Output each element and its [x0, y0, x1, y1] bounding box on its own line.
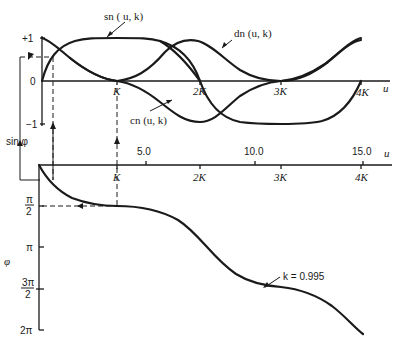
u-arrow-up	[50, 122, 56, 129]
sn-arrowhead	[107, 31, 113, 37]
phi-label-pi: π	[26, 242, 33, 253]
phi-label-half-pi-den: 2	[26, 206, 32, 217]
k-value-label: k = 0.995	[283, 271, 325, 282]
bottom-label-4K: 4K	[355, 171, 369, 183]
phi-axis-label: φ	[4, 255, 10, 267]
K-arrow-up	[114, 137, 120, 144]
sn-label: sn ( u, k)	[104, 10, 143, 23]
u-label-5: 5.0	[137, 146, 151, 157]
phi-label-2pi: 2π	[20, 325, 33, 336]
sin-phi-label: sin φ	[6, 136, 29, 147]
top-x-axis-label-u: u	[383, 82, 389, 94]
bottom-label-K: K	[112, 171, 121, 183]
half-pi-arrow-left	[77, 203, 83, 209]
construction-lines: sin φ	[6, 52, 120, 209]
top-y-label-plus1: +1	[22, 33, 34, 44]
phi-label-3half-pi-den: 2	[25, 289, 31, 300]
bottom-plot: 5.0 10.0 15.0 u K 2K 3K 4K π 2 π 3π 2 2π…	[4, 146, 392, 336]
bottom-label-3K: 3K	[273, 171, 288, 183]
phi-label-half-pi-num: π	[26, 194, 33, 205]
dn-label: dn (u, k)	[234, 27, 272, 40]
top-plot: +1 0 −1 K 2K 3K 4K u sn ( u, k) cn (u, k…	[22, 10, 390, 130]
cn-label: cn (u, k)	[130, 114, 167, 127]
top-y-label-zero: 0	[30, 76, 36, 87]
dn-arrowhead	[222, 42, 227, 48]
cn-curve	[42, 38, 361, 122]
dn-curve	[160, 41, 200, 81]
bottom-label-2K: 2K	[193, 171, 207, 183]
elliptic-functions-figure: +1 0 −1 K 2K 3K 4K u sn ( u, k) cn (u, k…	[0, 0, 398, 349]
phi-curve	[39, 165, 363, 334]
bracket-arrow-right	[28, 52, 34, 60]
u-label-10: 10.0	[244, 146, 264, 157]
bottom-x-axis-label-u: u	[384, 147, 390, 159]
u-label-15: 15.0	[352, 146, 372, 157]
top-x-label-3K: 3K	[273, 85, 288, 97]
top-y-label-minus1: −1	[26, 119, 38, 130]
dn-curve-segment	[70, 40, 361, 81]
phi-label-3half-pi-num: 3π	[22, 277, 35, 288]
